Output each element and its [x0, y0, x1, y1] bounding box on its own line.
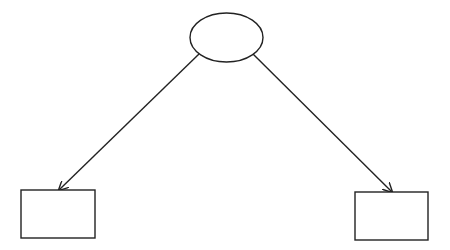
node-root [190, 13, 263, 62]
edges-group [59, 54, 392, 192]
arrow-root-to-right-child [253, 54, 392, 192]
node-left-child [21, 190, 95, 238]
node-right-child [355, 192, 428, 240]
diagram-canvas [0, 0, 450, 250]
nodes-group [21, 13, 428, 240]
arrow-root-to-left-child [59, 54, 199, 190]
